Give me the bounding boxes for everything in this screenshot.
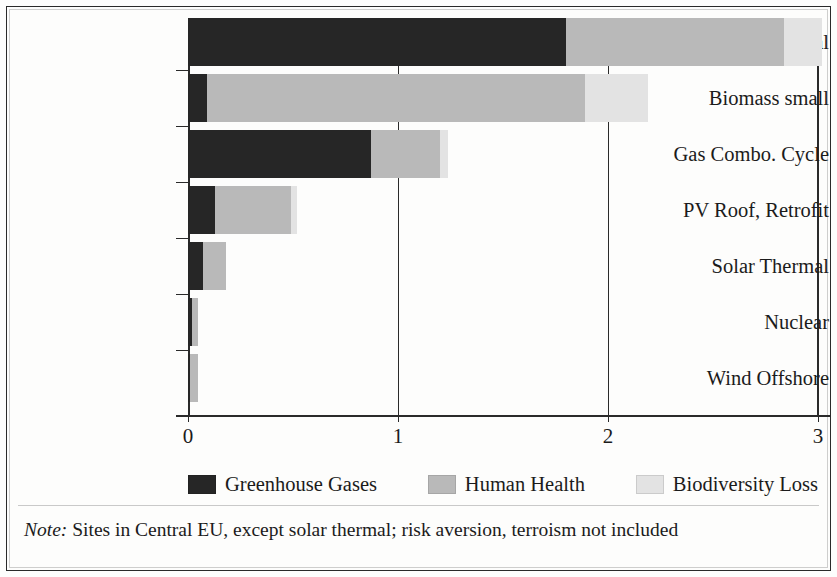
bar-row bbox=[188, 298, 198, 346]
bar-segment-biodiversity-loss bbox=[585, 74, 648, 122]
bar-row bbox=[188, 18, 822, 66]
category-label-nuclear: Nuclear bbox=[655, 298, 837, 346]
bar-segment-biodiversity-loss bbox=[440, 130, 448, 178]
legend-item-human-health: Human Health bbox=[428, 472, 585, 496]
bar-segment-biodiversity-loss bbox=[291, 186, 297, 234]
legend-label: Human Health bbox=[465, 472, 585, 496]
bar-segment-greenhouse-gases bbox=[188, 186, 215, 234]
category-tick bbox=[176, 294, 188, 295]
x-tick-label-2: 2 bbox=[588, 423, 628, 449]
legend-swatch-icon bbox=[636, 475, 664, 494]
x-axis-line bbox=[176, 415, 830, 417]
figure-note: Note: Sites in Central EU, except solar … bbox=[24, 517, 819, 543]
category-tick bbox=[176, 70, 188, 71]
bar-segment-human-health bbox=[566, 18, 784, 66]
legend-item-biodiversity-loss: Biodiversity Loss bbox=[636, 472, 818, 496]
x-tick-3 bbox=[818, 409, 819, 422]
chart-legend: Greenhouse GasesHuman HealthBiodiversity… bbox=[188, 470, 818, 498]
x-tick-label-3: 3 bbox=[798, 423, 837, 449]
bar-segment-biodiversity-loss bbox=[784, 18, 822, 66]
bar-row bbox=[188, 74, 648, 122]
bar-segment-human-health bbox=[190, 354, 198, 402]
category-label-gas-combo-cycle: Gas Combo. Cycle bbox=[655, 130, 837, 178]
category-label-wind-offshore: Wind Offshore bbox=[655, 354, 837, 402]
x-tick-label-1: 1 bbox=[378, 423, 418, 449]
category-tick bbox=[176, 126, 188, 127]
figure: 0123 Hard CoalBiomass smallGas Combo. Cy… bbox=[0, 0, 837, 577]
x-tick-2 bbox=[608, 409, 609, 422]
x-tick-0 bbox=[188, 409, 189, 422]
bar-segment-greenhouse-gases bbox=[188, 242, 203, 290]
note-text: Sites in Central EU, except solar therma… bbox=[67, 519, 678, 540]
bar-row bbox=[188, 354, 198, 402]
bar-segment-human-health bbox=[371, 130, 440, 178]
x-tick-label-0: 0 bbox=[168, 423, 208, 449]
bar-segment-greenhouse-gases bbox=[188, 74, 207, 122]
legend-label: Biodiversity Loss bbox=[673, 472, 818, 496]
bar-segment-greenhouse-gases bbox=[188, 18, 566, 66]
category-label-solar-thermal: Solar Thermal bbox=[655, 242, 837, 290]
legend-label: Greenhouse Gases bbox=[225, 472, 377, 496]
bar-segment-human-health bbox=[207, 74, 585, 122]
bar-row bbox=[188, 130, 448, 178]
legend-item-greenhouse-gases: Greenhouse Gases bbox=[188, 472, 377, 496]
bar-row bbox=[188, 242, 226, 290]
legend-swatch-icon bbox=[428, 475, 456, 494]
category-tick bbox=[176, 182, 188, 183]
category-label-biomass-small: Biomass small bbox=[655, 74, 837, 122]
x-tick-1 bbox=[398, 409, 399, 422]
bar-segment-greenhouse-gases bbox=[188, 130, 371, 178]
category-label-pv-roof-retrofit: PV Roof, Retrofit bbox=[655, 186, 837, 234]
category-tick bbox=[176, 350, 188, 351]
bar-segment-human-health bbox=[192, 298, 198, 346]
bar-segment-human-health bbox=[203, 242, 226, 290]
note-divider bbox=[18, 505, 819, 506]
category-tick bbox=[176, 238, 188, 239]
bar-segment-human-health bbox=[215, 186, 291, 234]
legend-swatch-icon bbox=[188, 475, 216, 494]
bar-row bbox=[188, 186, 297, 234]
note-prefix: Note: bbox=[24, 519, 67, 540]
